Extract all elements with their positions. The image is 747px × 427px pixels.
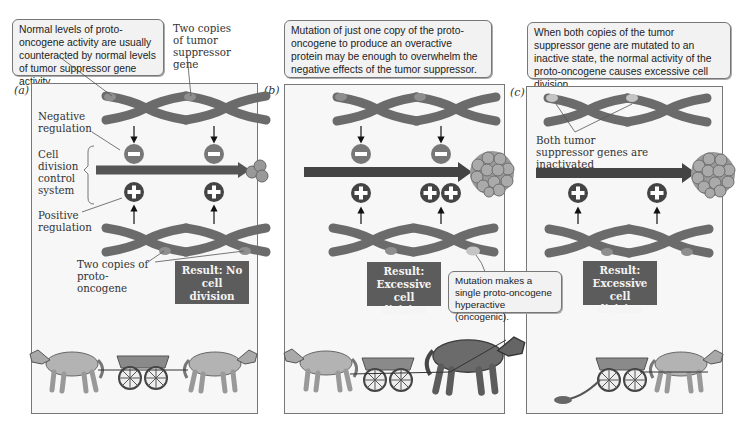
- caption-mutation: Mutation makes a single proto-oncogene h…: [448, 271, 562, 313]
- label-cell-division-control-system: Cell division control system: [38, 148, 86, 196]
- label-positive-regulation: Positive regulation: [38, 209, 93, 233]
- label-two-copies-proto-oncogene: Two copies of proto-oncogene: [77, 258, 157, 294]
- label-both-inactivated: Both tumor suppressor genes are inactiva…: [536, 134, 656, 170]
- panel-b-graphics: [284, 93, 525, 392]
- diagram-graphics: [0, 0, 747, 427]
- result-c: Result: Excessive cell division: [583, 261, 657, 305]
- result-a: Result: No cell division: [175, 261, 249, 304]
- label-negative-regulation: Negative regulation: [38, 110, 93, 134]
- result-b: Result: Excessive cell division: [367, 262, 441, 306]
